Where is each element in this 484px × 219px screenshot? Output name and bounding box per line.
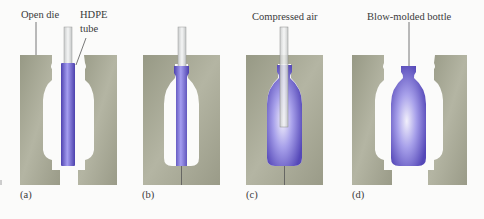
die-right-half [428,55,467,185]
blow-molding-diagram [0,0,484,219]
air-pipe [280,27,288,127]
panel-a [20,22,117,185]
blow-molded-bottle-callout: Blow-molded bottle [367,11,451,23]
die-right-half [78,55,117,185]
panel-d-label: (d) [352,189,364,200]
hdpe-tube [174,66,189,166]
hdpe-tube [61,63,75,166]
panel-d [352,22,467,185]
open-die-callout: Open die [21,9,59,21]
panel-a-label: (a) [20,189,32,200]
blow-molded-bottle [391,66,426,166]
compressed-air-callout: Compressed air [252,11,318,23]
die-left-half [352,55,392,185]
air-pipe [178,27,186,69]
tube-callout: tube [80,23,98,35]
air-pipe [64,27,72,67]
panel-b [143,27,220,185]
panel-b-label: (b) [142,189,154,200]
panel-c [246,27,323,185]
hdpe-callout: HDPE [80,9,107,21]
die-left-half [20,55,60,185]
panel-c-label: (c) [246,189,258,200]
